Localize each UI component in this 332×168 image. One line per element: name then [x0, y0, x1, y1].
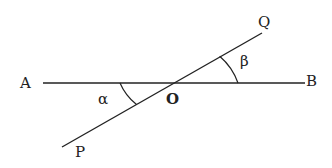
- arc-alpha: [120, 83, 137, 105]
- label-beta: β: [240, 52, 249, 70]
- label-B: B: [306, 72, 317, 90]
- line-PQ: [62, 33, 262, 147]
- arc-beta: [220, 56, 238, 83]
- label-Q: Q: [258, 13, 270, 31]
- label-A: A: [19, 74, 31, 92]
- label-P: P: [75, 143, 85, 161]
- label-O: O: [166, 90, 179, 108]
- diagram-canvas: A B Q P O α β: [0, 0, 332, 168]
- label-alpha: α: [98, 90, 108, 108]
